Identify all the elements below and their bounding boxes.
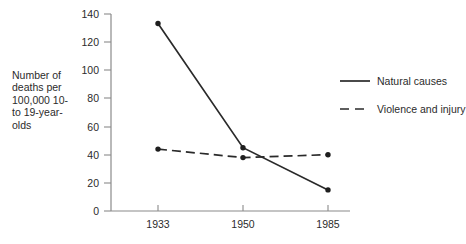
y-tick-label-20: 20 [87, 177, 99, 189]
y-axis-label-line-5: olds [12, 119, 96, 131]
y-axis-label-line-2: deaths per [12, 81, 96, 93]
series-line-natural-causes [158, 24, 328, 190]
data-point-violence-1950 [240, 155, 245, 160]
y-tick-label-140: 140 [81, 8, 99, 20]
y-axis-label-line-4: to 19-year- [12, 106, 96, 118]
y-tick-label-0: 0 [93, 205, 99, 217]
legend-item-natural-causes: Natural causes [340, 74, 460, 88]
y-axis-label-line-1: Number of [12, 69, 96, 81]
y-axis-label-line-3: 100,000 10- [12, 94, 96, 106]
data-point-violence-1985 [325, 152, 330, 157]
legend-label-natural-causes: Natural causes [377, 75, 447, 87]
y-axis-label: Number of deaths per 100,000 10- to 19-y… [12, 69, 96, 131]
x-tick-label-1985: 1985 [316, 218, 340, 230]
y-tick-label-40: 40 [87, 149, 99, 161]
x-tick-label-1950: 1950 [231, 218, 255, 230]
y-tick-label-120: 120 [81, 36, 99, 48]
data-point-violence-1933 [155, 146, 160, 151]
x-tick-label-1933: 1933 [146, 218, 170, 230]
data-point-natural-1950 [240, 145, 245, 150]
legend-dashed-line-icon [340, 104, 370, 114]
data-point-natural-1985 [325, 187, 330, 192]
chart-legend: Natural causes Violence and injury [340, 74, 460, 130]
data-point-natural-1933 [155, 21, 160, 26]
legend-solid-line-icon [340, 76, 370, 86]
legend-item-violence-and-injury: Violence and injury [340, 102, 460, 116]
legend-label-violence-and-injury: Violence and injury [377, 103, 466, 115]
